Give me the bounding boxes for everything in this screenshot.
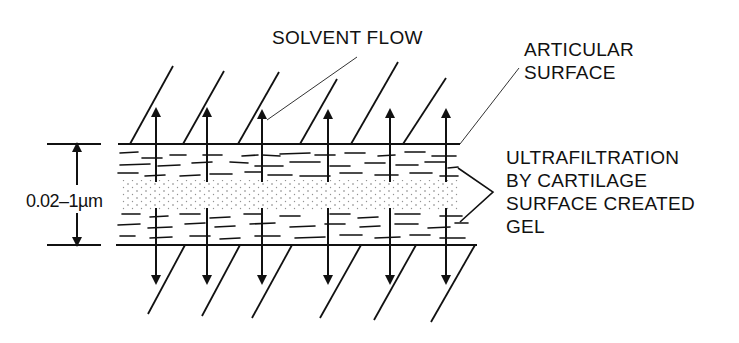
ultrafiltration-label: ULTRAFILTRATION BY CARTILAGE SURFACE CRE… bbox=[506, 146, 695, 238]
lower-cartilage-hatch bbox=[148, 245, 475, 322]
ultrafiltration-line-3: SURFACE CREATED bbox=[506, 192, 695, 215]
articular-surface-label: ARTICULAR SURFACE bbox=[524, 38, 634, 84]
ultrafiltration-bracket bbox=[458, 168, 493, 222]
fluid-film bbox=[120, 180, 460, 210]
articular-surface-leader bbox=[460, 68, 519, 144]
solvent-flow-leader bbox=[267, 57, 357, 120]
articular-surface-line-2: SURFACE bbox=[524, 61, 634, 84]
ultrafiltration-line-4: GEL bbox=[506, 215, 695, 238]
ultrafiltration-line-1: ULTRAFILTRATION bbox=[506, 146, 695, 169]
upper-cartilage-hatch bbox=[130, 62, 446, 144]
articular-surface-line-1: ARTICULAR bbox=[524, 38, 634, 61]
upper-gel-layer bbox=[118, 152, 458, 176]
lower-gel-layer bbox=[118, 214, 468, 239]
solvent-flow-arrows-up bbox=[156, 112, 446, 182]
ultrafiltration-line-2: BY CARTILAGE bbox=[506, 169, 695, 192]
solvent-flow-label: SOLVENT FLOW bbox=[272, 26, 423, 49]
gap-dimension-label: 0.02–1µm bbox=[26, 190, 102, 213]
